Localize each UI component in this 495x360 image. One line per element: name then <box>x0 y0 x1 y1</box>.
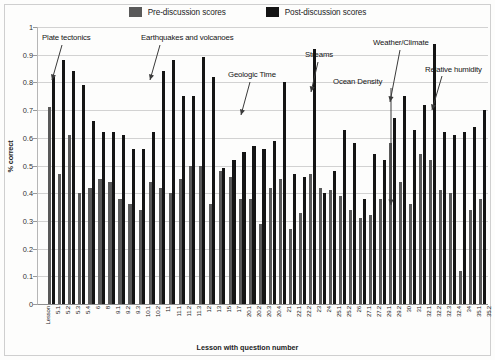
bar-post-discussion[interactable] <box>242 152 245 304</box>
bar-pre-discussion[interactable] <box>369 215 372 304</box>
bar-post-discussion[interactable] <box>262 149 265 304</box>
bar-group[interactable] <box>358 27 368 304</box>
bar-pre-discussion[interactable] <box>58 174 61 304</box>
bar-pre-discussion[interactable] <box>199 166 202 305</box>
bar-pre-discussion[interactable] <box>189 166 192 305</box>
bar-pre-discussion[interactable] <box>409 204 412 304</box>
bar-pre-discussion[interactable] <box>379 199 382 304</box>
bar-group[interactable] <box>278 27 288 304</box>
bar-post-discussion[interactable] <box>373 154 376 304</box>
bar-pre-discussion[interactable] <box>149 182 152 304</box>
bar-pre-discussion[interactable] <box>439 190 442 304</box>
bar-post-discussion[interactable] <box>152 132 155 304</box>
bar-post-discussion[interactable] <box>162 71 165 304</box>
bar-pre-discussion[interactable] <box>98 179 101 304</box>
bar-group[interactable] <box>338 27 348 304</box>
bar-post-discussion[interactable] <box>403 96 406 304</box>
bar-pre-discussion[interactable] <box>209 204 212 304</box>
bar-post-discussion[interactable] <box>423 105 426 304</box>
bar-pre-discussion[interactable] <box>419 154 422 304</box>
bar-pre-discussion[interactable] <box>469 210 472 304</box>
bar-post-discussion[interactable] <box>273 141 276 304</box>
bar-group[interactable] <box>348 27 358 304</box>
bar-pre-discussion[interactable] <box>239 199 242 304</box>
bar-post-discussion[interactable] <box>182 96 185 304</box>
bar-group[interactable] <box>408 27 418 304</box>
bar-post-discussion[interactable] <box>283 82 286 304</box>
bar-group[interactable] <box>127 27 137 304</box>
bar-post-discussion[interactable] <box>353 143 356 304</box>
bar-pre-discussion[interactable] <box>299 213 302 304</box>
bar-post-discussion[interactable] <box>453 135 456 304</box>
bar-post-discussion[interactable] <box>363 199 366 304</box>
bar-post-discussion[interactable] <box>52 77 55 304</box>
bar-post-discussion[interactable] <box>132 149 135 304</box>
bar-pre-discussion[interactable] <box>169 193 172 304</box>
bar-post-discussion[interactable] <box>122 135 125 304</box>
bar-post-discussion[interactable] <box>323 193 326 304</box>
bar-post-discussion[interactable] <box>463 132 466 304</box>
bar-group[interactable] <box>107 27 117 304</box>
bar-pre-discussion[interactable] <box>459 271 462 304</box>
bar-group[interactable] <box>177 27 187 304</box>
bar-post-discussion[interactable] <box>92 121 95 304</box>
bar-group[interactable] <box>257 27 267 304</box>
bar-post-discussion[interactable] <box>142 149 145 304</box>
bar-post-discussion[interactable] <box>192 96 195 304</box>
bar-post-discussion[interactable] <box>72 71 75 304</box>
bar-pre-discussion[interactable] <box>349 210 352 304</box>
bar-post-discussion[interactable] <box>212 77 215 304</box>
bar-pre-discussion[interactable] <box>399 182 402 304</box>
bar-post-discussion[interactable] <box>303 177 306 304</box>
bar-pre-discussion[interactable] <box>339 196 342 304</box>
bar-pre-discussion[interactable] <box>249 199 252 304</box>
bar-post-discussion[interactable] <box>252 146 255 304</box>
bar-post-discussion[interactable] <box>202 57 205 304</box>
bar-pre-discussion[interactable] <box>179 179 182 304</box>
bar-group[interactable] <box>237 27 247 304</box>
bar-pre-discussion[interactable] <box>128 204 131 304</box>
bar-group[interactable] <box>87 27 97 304</box>
bar-pre-discussion[interactable] <box>78 193 81 304</box>
bar-pre-discussion[interactable] <box>429 160 432 304</box>
bar-group[interactable] <box>117 27 127 304</box>
bar-group[interactable] <box>268 27 278 304</box>
bar-group[interactable] <box>187 27 197 304</box>
bar-post-discussion[interactable] <box>102 132 105 304</box>
bar-post-discussion[interactable] <box>172 60 175 304</box>
bar-group[interactable] <box>368 27 378 304</box>
bar-post-discussion[interactable] <box>222 168 225 304</box>
bar-group[interactable] <box>328 27 338 304</box>
bar-pre-discussion[interactable] <box>229 177 232 304</box>
bar-pre-discussion[interactable] <box>319 188 322 304</box>
bar-group[interactable] <box>67 27 77 304</box>
bar-post-discussion[interactable] <box>293 174 296 304</box>
bar-pre-discussion[interactable] <box>289 229 292 304</box>
bar-post-discussion[interactable] <box>343 130 346 305</box>
bar-pre-discussion[interactable] <box>88 188 91 304</box>
bar-group[interactable] <box>207 27 217 304</box>
bar-pre-discussion[interactable] <box>68 135 71 304</box>
bar-group[interactable] <box>288 27 298 304</box>
bar-pre-discussion[interactable] <box>309 174 312 304</box>
bar-pre-discussion[interactable] <box>118 199 121 304</box>
bar-pre-discussion[interactable] <box>359 218 362 304</box>
bar-pre-discussion[interactable] <box>139 210 142 304</box>
bar-pre-discussion[interactable] <box>329 190 332 304</box>
bar-pre-discussion[interactable] <box>269 188 272 304</box>
bar-group[interactable] <box>247 27 257 304</box>
bar-post-discussion[interactable] <box>82 85 85 304</box>
bar-post-discussion[interactable] <box>333 171 336 304</box>
bar-post-discussion[interactable] <box>62 60 65 304</box>
bar-post-discussion[interactable] <box>112 132 115 304</box>
bar-pre-discussion[interactable] <box>219 171 222 304</box>
bar-pre-discussion[interactable] <box>449 193 452 304</box>
bar-post-discussion[interactable] <box>443 132 446 304</box>
bar-pre-discussion[interactable] <box>108 182 111 304</box>
bar-post-discussion[interactable] <box>232 160 235 304</box>
bar-group[interactable] <box>77 27 87 304</box>
bar-group[interactable] <box>217 27 227 304</box>
bar-group[interactable] <box>167 27 177 304</box>
bar-pre-discussion[interactable] <box>279 179 282 304</box>
bar-group[interactable] <box>97 27 107 304</box>
